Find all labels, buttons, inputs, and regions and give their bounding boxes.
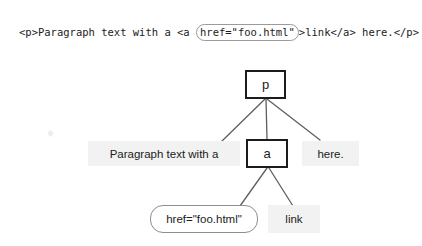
html-source-code-line: <p>Paragraph text with a <a href="foo.ht… — [19, 22, 411, 42]
tree-node-element-a: a — [246, 139, 288, 168]
tree-node-label: href="foo.html" — [166, 213, 242, 225]
tree-node-label: a — [263, 146, 270, 161]
highlighted-attribute-chip: href="foo.html" — [196, 24, 299, 41]
tree-node-label: Paragraph text with a — [110, 148, 219, 160]
edge-a-to-text3 — [269, 168, 293, 206]
figure-canvas: <p>Paragraph text with a <a href="foo.ht… — [0, 0, 422, 246]
tree-node-label: p — [262, 77, 269, 92]
tree-node-text-link: link — [268, 205, 320, 233]
tree-node-element-p: p — [245, 70, 286, 99]
background-speck — [47, 130, 54, 137]
tree-node-label: link — [285, 213, 302, 225]
tree-node-label: here. — [317, 148, 343, 160]
tree-node-attribute-href: href="foo.html" — [150, 205, 258, 233]
edge-p-to-a — [266, 99, 267, 139]
edge-a-to-attr — [240, 168, 267, 206]
edge-p-to-text1 — [222, 99, 265, 141]
edge-p-to-text2 — [267, 99, 320, 140]
tree-node-text-here: here. — [302, 141, 359, 166]
code-segment-after: >link</a> here.</p> — [299, 26, 419, 38]
code-segment-before: <p>Paragraph text with a <a — [19, 26, 196, 38]
tree-node-text-paragraph: Paragraph text with a — [88, 141, 240, 166]
